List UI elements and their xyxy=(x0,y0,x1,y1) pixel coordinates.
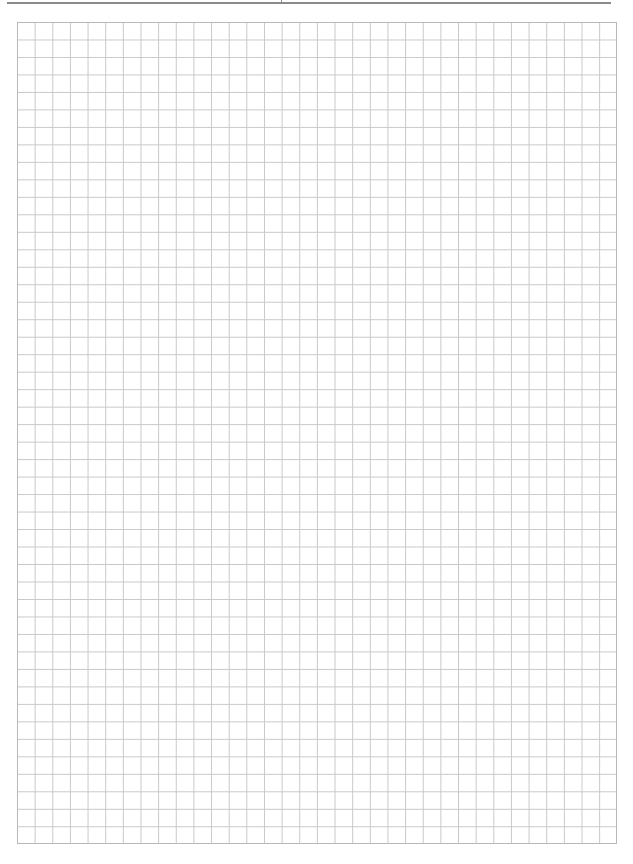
grid-area xyxy=(17,22,617,844)
header-rule xyxy=(7,2,611,4)
header-center-mark xyxy=(281,0,282,4)
